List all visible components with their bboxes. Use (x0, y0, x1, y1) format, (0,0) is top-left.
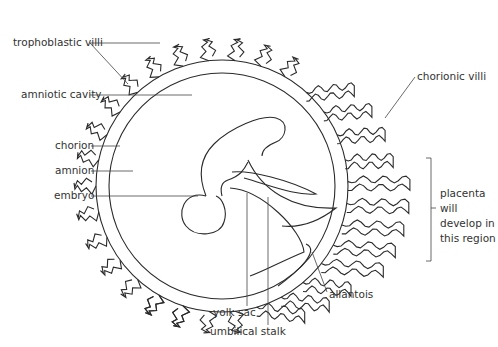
chorionic-villus (342, 220, 404, 236)
villus-tuft (172, 306, 189, 327)
villus-tuft (228, 39, 244, 61)
allantois-curve (248, 160, 336, 226)
villus-tuft (255, 45, 272, 66)
villus-tuft (280, 57, 299, 77)
label-amniotic-cavity: amniotic cavity (21, 88, 101, 101)
villus-tuft (101, 259, 122, 275)
chorionic-villus (337, 127, 385, 143)
label-allantois: allantois (329, 288, 373, 301)
label-umbilical-stalk: umbilical stalk (210, 325, 286, 338)
chorionic-villus (324, 104, 372, 121)
label-amnion: amnion (55, 164, 94, 177)
trophoblastic-villi (74, 39, 299, 334)
villus-tuft (146, 56, 161, 77)
villus-tuft (121, 280, 141, 298)
embryo-body (201, 117, 285, 196)
label-yolk-sac: yolk sac (213, 306, 256, 319)
villus-tuft (145, 295, 164, 315)
villus-tuft (101, 97, 120, 117)
chorionic-villus (321, 259, 383, 277)
placenta-bracket (426, 158, 431, 261)
chorionic-villus (306, 83, 354, 102)
villus-tuft (121, 74, 138, 95)
label-placenta-region: placenta will develop in this region (440, 186, 496, 246)
label-chorionic-villi: chorionic villi (417, 70, 486, 83)
chorionic-villus (347, 198, 409, 213)
chorionic-villus (257, 303, 305, 323)
chorionic-villus (333, 241, 395, 258)
label-embryo: embryo (54, 189, 94, 202)
villus-tuft (86, 122, 107, 140)
leader-trophoblastic-villi-b (90, 43, 128, 84)
chorionic-villus (348, 176, 410, 191)
villus-tuft (86, 234, 107, 249)
umbilical-stalk-curve (230, 188, 311, 286)
leader-chorionic-villi (385, 77, 415, 118)
villus-tuft (201, 39, 216, 61)
villus-tuft (173, 44, 187, 66)
embryo-head (182, 195, 226, 234)
label-chorion: chorion (55, 139, 94, 152)
villus-tuft (77, 207, 99, 221)
label-trophoblastic-villi: trophoblastic villi (13, 36, 103, 49)
chorionic-villus (345, 154, 393, 169)
